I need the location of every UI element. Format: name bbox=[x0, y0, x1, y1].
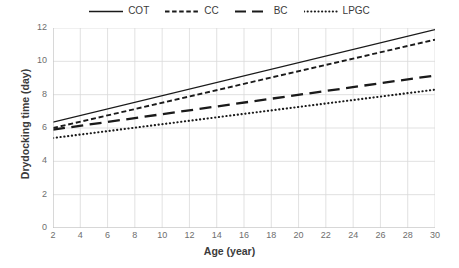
x-tick-label: 14 bbox=[212, 231, 222, 240]
legend-line-solid-icon bbox=[89, 7, 123, 16]
legend-item-cc[interactable]: CC bbox=[165, 6, 218, 16]
legend-label-cc: CC bbox=[204, 6, 218, 16]
plot-canvas bbox=[53, 28, 435, 228]
x-tick-label: 4 bbox=[78, 231, 83, 240]
x-tick-label: 10 bbox=[157, 231, 167, 240]
chart-figure: COT CC BC LPGC 024681012 bbox=[0, 0, 459, 268]
x-tick-label: 26 bbox=[375, 231, 385, 240]
legend-line-long-dash-icon bbox=[235, 7, 269, 16]
x-tick-label: 18 bbox=[266, 231, 276, 240]
x-axis-title: Age (year) bbox=[0, 245, 459, 257]
plot-area bbox=[53, 28, 435, 228]
legend-label-lpgc: LPGC bbox=[343, 6, 370, 16]
legend-item-cot[interactable]: COT bbox=[89, 6, 149, 16]
legend-label-cot: COT bbox=[128, 6, 149, 16]
y-axis-title: Drydocking time (day) bbox=[19, 44, 31, 204]
x-tick-label: 30 bbox=[430, 231, 440, 240]
legend-label-bc: BC bbox=[274, 6, 288, 16]
x-axis-tick-labels: 24681012141618202224262830 bbox=[0, 231, 459, 245]
x-tick-label: 22 bbox=[321, 231, 331, 240]
grid-lines bbox=[53, 28, 435, 228]
x-tick-label: 2 bbox=[50, 231, 55, 240]
x-tick-label: 20 bbox=[294, 231, 304, 240]
legend-line-dotted-icon bbox=[304, 7, 338, 16]
x-tick-label: 6 bbox=[105, 231, 110, 240]
legend-item-bc[interactable]: BC bbox=[235, 6, 288, 16]
legend-line-dashed-icon bbox=[165, 7, 199, 16]
legend-item-lpgc[interactable]: LPGC bbox=[304, 6, 370, 16]
x-tick-label: 16 bbox=[239, 231, 249, 240]
x-tick-label: 12 bbox=[184, 231, 194, 240]
x-tick-label: 28 bbox=[403, 231, 413, 240]
y-tick-label: 12 bbox=[27, 23, 47, 32]
x-tick-label: 8 bbox=[132, 231, 137, 240]
chart-legend: COT CC BC LPGC bbox=[0, 2, 459, 20]
x-tick-label: 24 bbox=[348, 231, 358, 240]
